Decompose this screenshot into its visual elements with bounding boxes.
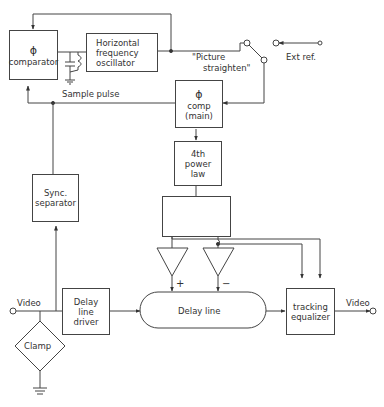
ext-ref-terminal bbox=[318, 41, 322, 45]
switch-contact-bottom bbox=[261, 57, 267, 63]
amp-plus bbox=[157, 248, 188, 276]
amp-minus bbox=[203, 248, 234, 276]
picture-straighten-label-2: straighten" bbox=[203, 63, 250, 73]
sample-pulse-label: Sample pulse bbox=[62, 89, 119, 99]
video-in-label: Video bbox=[17, 298, 41, 308]
unlabeled-block bbox=[162, 196, 231, 237]
plus-label: + bbox=[176, 279, 184, 289]
minus-label: − bbox=[222, 279, 230, 289]
video-out-label: Video bbox=[346, 298, 370, 308]
phase-comparator-block: ϕ comparator bbox=[9, 30, 58, 80]
phase-comp-main-block: ϕ comp (main) bbox=[175, 80, 223, 128]
switch-to-junction bbox=[240, 43, 244, 51]
tracking-equalizer-block: tracking equalizer bbox=[286, 288, 335, 335]
delay-line-driver-block: Delay line driver bbox=[62, 288, 110, 335]
delay-line-label: Delay line bbox=[178, 306, 220, 316]
video-out-terminal bbox=[370, 308, 376, 314]
ext-ref-contact bbox=[273, 40, 279, 46]
switch-arm bbox=[249, 45, 262, 58]
ext-ref-label: Ext ref. bbox=[286, 52, 316, 62]
picture-straighten-label-1: "Picture bbox=[192, 52, 225, 62]
fourth-power-law-block: 4th power law bbox=[174, 141, 222, 186]
phi-symbol: ϕ bbox=[30, 44, 37, 57]
video-in-terminal bbox=[10, 308, 16, 314]
sync-separator-block: Sync. separator bbox=[32, 174, 79, 222]
horizontal-oscillator-block: Horizontal frequency oscillator bbox=[86, 33, 158, 72]
clamp-label: Clamp bbox=[24, 341, 51, 351]
